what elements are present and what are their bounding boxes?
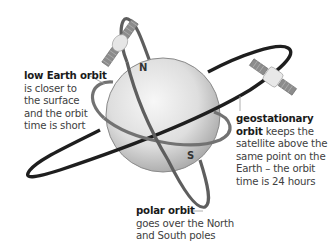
geostationary-orbit-text-line: satellite above the xyxy=(236,138,327,151)
low-earth-orbit-satellite-icon xyxy=(99,18,140,69)
polar-orbit-text-line: and South poles xyxy=(136,230,234,243)
geostationary-orbit-label: geostationary orbit keeps the satellite … xyxy=(236,113,327,189)
geostationary-satellite-icon xyxy=(247,56,299,99)
low-earth-orbit-text-line: and the orbit xyxy=(24,108,107,121)
polar-orbit-label: polar orbit goes over the North and Sout… xyxy=(136,205,234,243)
geostationary-orbit-text-rest: keeps the xyxy=(263,126,314,137)
geostationary-orbit-text-line: same point on the xyxy=(236,151,327,164)
south-pole-label: S xyxy=(187,150,194,161)
low-earth-orbit-text-line: time is short xyxy=(24,120,107,133)
low-earth-orbit-label: low Earth orbit is closer to the surface… xyxy=(24,70,107,133)
low-earth-orbit-title: low Earth orbit xyxy=(24,70,107,81)
low-earth-orbit-text-line: the surface xyxy=(24,95,107,108)
geostationary-orbit-text-line: Earth – the orbit xyxy=(236,163,327,176)
geostationary-orbit-title-1: geostationary xyxy=(236,113,314,124)
orbit-diagram: N S low Earth orbit is closer to the sur… xyxy=(0,0,333,252)
polar-orbit-title: polar orbit xyxy=(136,205,195,216)
geostationary-orbit-title-2: orbit xyxy=(236,126,263,137)
low-earth-orbit-text-line: is closer to xyxy=(24,83,107,96)
polar-orbit-text-line: goes over the North xyxy=(136,218,234,231)
north-pole-label: N xyxy=(139,62,147,73)
geostationary-orbit-text-line: time is 24 hours xyxy=(236,176,327,189)
